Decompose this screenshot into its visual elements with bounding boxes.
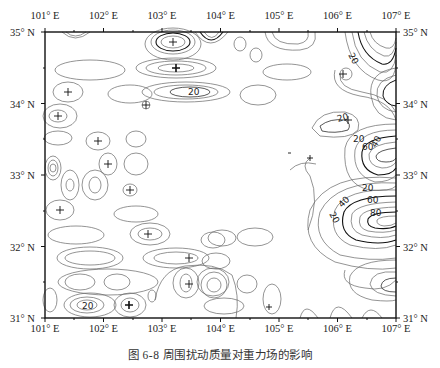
x-label-bottom-106: 106° E [323, 323, 352, 334]
y-label-right-31: 31° N [403, 313, 428, 324]
x-label-top-105: 105° E [265, 10, 294, 21]
svg-text:60: 60 [362, 142, 374, 152]
x-label-bottom-101: 101° E [31, 323, 60, 334]
x-label-top-101: 101° E [31, 10, 60, 21]
y-label-left-34: 34° N [10, 98, 35, 109]
svg-text:20: 20 [362, 183, 374, 193]
y-label-left-33: 33° N [10, 170, 35, 181]
figure-caption: 图 6-8 周围扰动质量对重力场的影响 [0, 346, 440, 362]
svg-text:20: 20 [82, 301, 94, 311]
y-label-right-33: 33° N [403, 170, 428, 181]
y-label-left-32: 32° N [10, 241, 35, 252]
svg-text:20: 20 [327, 210, 342, 225]
svg-text:20: 20 [188, 87, 200, 97]
x-label-bottom-102: 102° E [89, 323, 118, 334]
y-label-right-34: 34° N [403, 98, 428, 109]
x-label-top-102: 102° E [89, 10, 118, 21]
x-label-top-107: 107° E [382, 10, 411, 21]
svg-text:80: 80 [370, 208, 382, 218]
x-label-top-103: 103° E [148, 10, 177, 21]
y-label-right-32: 32° N [403, 241, 428, 252]
x-label-bottom-105: 105° E [265, 323, 294, 334]
x-label-top-104: 104° E [206, 10, 235, 21]
y-label-left-31: 31° N [10, 313, 35, 324]
x-label-top-106: 106° E [323, 10, 352, 21]
y-label-left-35: 35° N [10, 27, 35, 38]
gravity-contour-map: 20 20 20 20 40 60 20 60 40 80 20 20 [0, 0, 440, 368]
map-frame [41, 28, 400, 322]
contour-value-labels: 20 20 20 20 40 60 20 60 40 80 20 20 [82, 51, 384, 311]
x-label-bottom-104: 104° E [206, 323, 235, 334]
y-label-right-35: 35° N [403, 27, 428, 38]
x-label-bottom-107: 107° E [382, 323, 411, 334]
svg-text:60: 60 [367, 195, 379, 205]
x-label-bottom-103: 103° E [148, 323, 177, 334]
